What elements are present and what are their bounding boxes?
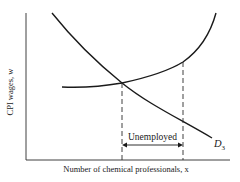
wage-chart: Unemployed D3 Number of chemical profess… [0, 0, 240, 182]
arrow-head-right-icon [178, 143, 183, 148]
chart-canvas: Unemployed D3 Number of chemical profess… [0, 0, 240, 182]
x-axis-label: Number of chemical professionals, x [63, 164, 189, 174]
arrow-head-left-icon [122, 143, 127, 148]
unemployed-label: Unemployed [128, 132, 177, 142]
demand-curve-label-sub: 3 [222, 144, 226, 152]
y-axis-label: CPI wages, w [5, 68, 15, 116]
demand-curve-d3 [52, 13, 212, 138]
demand-curve-label: D3 [213, 138, 226, 152]
